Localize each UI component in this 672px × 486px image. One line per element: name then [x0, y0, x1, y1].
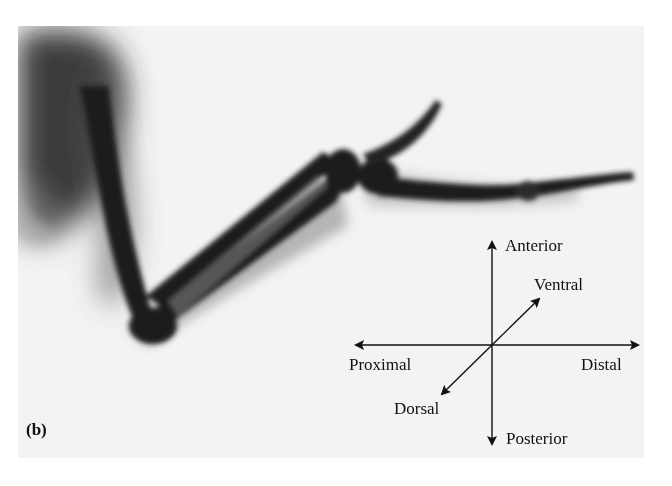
label-dorsal: Dorsal [394, 400, 439, 417]
label-distal: Distal [581, 356, 622, 373]
panel-label: (b) [26, 420, 47, 440]
label-proximal: Proximal [349, 356, 411, 373]
ventral-arrow [492, 299, 539, 345]
orientation-axes [0, 0, 672, 486]
dorsal-arrow [442, 345, 492, 394]
label-posterior: Posterior [506, 430, 567, 447]
label-ventral: Ventral [534, 276, 583, 293]
label-anterior: Anterior [505, 237, 563, 254]
